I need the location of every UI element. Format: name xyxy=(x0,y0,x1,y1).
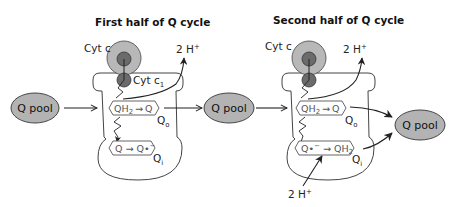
q-pool-middle-label: Q pool xyxy=(211,102,247,115)
proton-out-label: 2 H+ xyxy=(343,43,367,55)
q-pool-input-label: Q pool xyxy=(17,102,53,115)
cyt-c-label: Cyt c xyxy=(265,40,292,52)
panel-title: Second half of Q cycle xyxy=(273,14,404,26)
proton-in-label: 2 H+ xyxy=(288,188,312,200)
proton-out-label: 2 H+ xyxy=(176,43,200,55)
cyt-c-label: Cyt c xyxy=(84,42,111,54)
panel-second-half: Second half of Q cycle Cyt c 2 H+ QH2→Q … xyxy=(256,14,445,200)
qi-reaction: Q•−→QH2 xyxy=(301,142,353,156)
panel-first-half: First half of Q cycle Cyt c Cyt c1 2 H+ … xyxy=(11,16,210,180)
q-pool-output-label: Q pool xyxy=(402,119,438,132)
q-cycle-diagram: First half of Q cycle Cyt c Cyt c1 2 H+ … xyxy=(0,0,457,207)
panel-title: First half of Q cycle xyxy=(95,16,210,28)
